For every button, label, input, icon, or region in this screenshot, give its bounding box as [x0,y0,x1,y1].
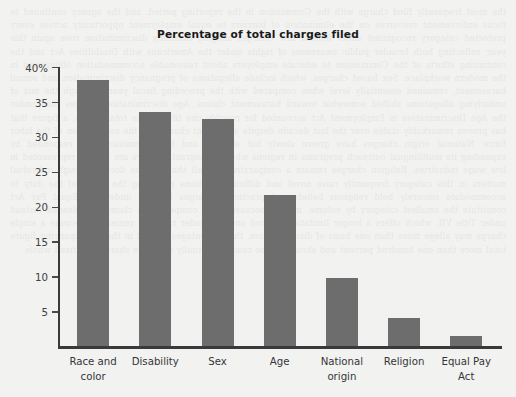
x-axis-label: Equal Pay Act [435,354,497,384]
x-axis-label: Disability [124,354,186,369]
y-tick-20: 20 [52,207,58,208]
x-axis-line [58,346,502,349]
x-axis-label: Sex [186,354,248,369]
plot-area: 40%3530252015105 Race and colorDisabilit… [58,60,502,346]
bar [388,318,420,346]
y-tick-25: 25 [52,172,58,173]
y-tick-label: 35 [35,97,48,108]
chart-title: Percentage of total charges filed [0,28,516,40]
y-tick-label: 20 [35,202,48,213]
x-axis-label: National origin [311,354,373,384]
y-tick-15: 15 [52,241,58,242]
y-tick-40: 40% [52,67,58,68]
y-tick-label: 15 [35,237,48,248]
bar [326,278,358,346]
bar [264,195,296,346]
bar [450,336,482,346]
y-tick-label: 10 [35,271,48,282]
bar-chart-figure: Percentage of total charges filed 40%353… [0,0,516,397]
y-tick-label: 30 [35,132,48,143]
x-axis-label: Age [249,354,311,369]
y-tick-30: 30 [52,137,58,138]
y-tick-label: 40% [25,62,48,73]
y-tick-label: 5 [42,306,48,317]
x-axis-label: Religion [373,354,435,369]
x-axis-label: Race and color [62,354,124,384]
y-axis-line [58,67,60,346]
bar [77,80,109,346]
y-tick-5: 5 [52,311,58,312]
y-tick-10: 10 [52,276,58,277]
y-tick-label: 25 [35,167,48,178]
bar [202,119,234,346]
y-tick-35: 35 [52,102,58,103]
bar [139,112,171,346]
